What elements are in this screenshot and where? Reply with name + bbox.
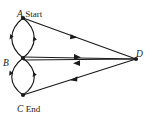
edge-b-to-c-left [12,58,23,95]
node-b-dot [21,56,25,60]
node-a-tag: Start [25,9,42,19]
edge-b-to-c-right [23,58,34,95]
node-a-label: AStart [17,4,42,20]
node-c-tag: End [26,104,41,113]
node-c-dot [21,93,25,97]
arrowhead-d-to-c [70,76,78,81]
graph-figure: AStart B CEnd D [0,0,152,113]
edge-a-to-b-right [23,18,34,58]
node-b-id: B [3,58,9,68]
node-d-id: D [136,49,143,59]
node-c-id: C [17,104,23,113]
edge-a-to-d [23,18,136,59]
edge-a-to-b-left [12,18,23,58]
edge-d-to-b [23,59,136,60]
node-c-label: CEnd [17,99,40,113]
arrowhead-d-to-b [73,60,80,66]
node-b-label: B [3,53,9,69]
node-a-id: A [17,9,23,19]
node-d-label: D [136,44,143,60]
arrowhead-a-to-d [70,34,78,39]
